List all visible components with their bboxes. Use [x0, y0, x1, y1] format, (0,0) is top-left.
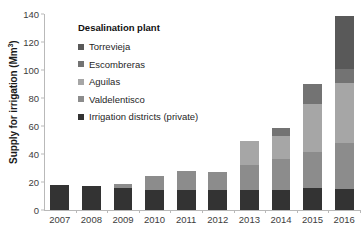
- bar-segment: [50, 185, 69, 210]
- stacked-bar-chart: Supply for irrigation (Mm3) 020406080100…: [0, 0, 364, 245]
- bar-segment: [335, 83, 354, 143]
- legend-swatch-icon: [78, 44, 84, 50]
- bar-group: [335, 16, 354, 210]
- bar-segment: [240, 141, 259, 165]
- bar-segment: [208, 190, 227, 210]
- bar-segment: [114, 188, 133, 210]
- bar-group: [208, 172, 227, 210]
- y-tick-label: 120: [23, 37, 39, 48]
- x-tick-mark: [107, 210, 108, 213]
- bar-segment: [240, 190, 259, 210]
- x-tick-label: 2016: [334, 214, 355, 225]
- legend-item-label: Torrevieja: [89, 41, 130, 52]
- x-tick-mark: [139, 210, 140, 213]
- bar-group: [114, 184, 133, 210]
- legend-item-label: Escombreras: [89, 59, 145, 70]
- bar-segment: [272, 136, 291, 159]
- x-tick-label: 2009: [112, 214, 133, 225]
- x-tick-label: 2008: [81, 214, 102, 225]
- x-tick-label: 2014: [270, 214, 291, 225]
- bar-segment: [177, 190, 196, 210]
- x-tick-mark: [170, 210, 171, 213]
- legend-swatch-icon: [78, 61, 84, 67]
- y-tick-label: 60: [28, 121, 39, 132]
- x-tick-mark: [234, 210, 235, 213]
- legend-item[interactable]: Torrevieja: [78, 41, 198, 52]
- x-tick-mark: [202, 210, 203, 213]
- bar-segment: [335, 69, 354, 82]
- y-tick-label: 80: [28, 93, 39, 104]
- x-tick-label: 2012: [207, 214, 228, 225]
- bar-group: [50, 185, 69, 210]
- bar-segment: [335, 189, 354, 210]
- legend-items: TorreviejaEscombrerasAguilasValdelentisc…: [78, 41, 198, 122]
- x-tick-mark: [265, 210, 266, 213]
- bar-segment: [272, 190, 291, 210]
- x-tick-mark: [297, 210, 298, 213]
- legend-item-label: Valdelentisco: [89, 94, 145, 105]
- bar-segment: [177, 171, 196, 189]
- bar-segment: [303, 152, 322, 188]
- y-tick-label: 0: [34, 205, 39, 216]
- y-tick-label: 20: [28, 177, 39, 188]
- legend-item[interactable]: Aguilas: [78, 76, 198, 87]
- bar-segment: [303, 188, 322, 210]
- bar-group: [145, 176, 164, 210]
- bar-segment: [303, 84, 322, 104]
- x-tick-label: 2010: [144, 214, 165, 225]
- legend-item[interactable]: Valdelentisco: [78, 94, 198, 105]
- bar-segment: [272, 128, 291, 136]
- bar-segment: [240, 165, 259, 189]
- bar-group: [272, 128, 291, 210]
- legend-swatch-icon: [78, 79, 84, 85]
- x-tick-mark: [360, 210, 361, 213]
- y-tick-label: 140: [23, 9, 39, 20]
- y-axis-title: Supply for irrigation (Mm3): [7, 27, 19, 177]
- legend-item[interactable]: Irrigation districts (private): [78, 111, 198, 122]
- legend-title: Desalination plant: [78, 22, 198, 33]
- y-tick-label: 100: [23, 65, 39, 76]
- bar-segment: [145, 176, 164, 189]
- bar-group: [240, 141, 259, 210]
- x-tick-label: 2013: [239, 214, 260, 225]
- bar-group: [82, 186, 101, 210]
- bar-segment: [145, 190, 164, 210]
- legend-item[interactable]: Escombreras: [78, 59, 198, 70]
- x-tick-mark: [328, 210, 329, 213]
- chart-legend: Desalination plant TorreviejaEscombreras…: [78, 22, 198, 129]
- y-tick-label: 40: [28, 149, 39, 160]
- x-tick-label: 2015: [302, 214, 323, 225]
- bar-segment: [272, 159, 291, 190]
- legend-item-label: Aguilas: [89, 76, 120, 87]
- bar-segment: [335, 16, 354, 69]
- bar-segment: [82, 186, 101, 210]
- bar-segment: [335, 143, 354, 189]
- x-tick-label: 2007: [49, 214, 70, 225]
- bar-group: [177, 171, 196, 210]
- y-axis-title-superscript: 3: [7, 44, 14, 48]
- x-tick-label: 2011: [176, 214, 196, 225]
- legend-swatch-icon: [78, 96, 84, 102]
- legend-swatch-icon: [78, 114, 84, 120]
- y-axis-title-close: ): [8, 40, 19, 43]
- legend-item-label: Irrigation districts (private): [89, 111, 198, 122]
- bar-segment: [303, 104, 322, 152]
- bar-segment: [208, 172, 227, 189]
- y-axis-title-main: Supply for irrigation (Mm: [8, 47, 19, 163]
- x-tick-mark: [76, 210, 77, 213]
- bar-group: [303, 84, 322, 210]
